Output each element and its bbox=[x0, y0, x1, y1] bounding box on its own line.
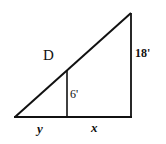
small-height-label: 6' bbox=[70, 87, 78, 101]
hypotenuse-line bbox=[15, 13, 131, 117]
point-label-d: D bbox=[43, 47, 54, 63]
base-left-label-y: y bbox=[35, 121, 43, 136]
large-height-label: 18' bbox=[135, 46, 150, 60]
similar-triangles-diagram: D 6' 18' y x bbox=[0, 0, 166, 144]
base-right-label-x: x bbox=[90, 120, 98, 135]
